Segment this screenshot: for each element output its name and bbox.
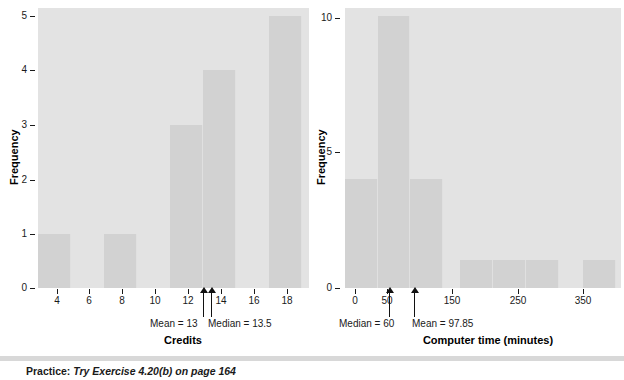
bar-left-5 — [170, 125, 203, 288]
right-yaxis-title: Frequency — [315, 129, 327, 185]
right-xtick-150: 150 — [442, 295, 462, 306]
page-footer: Practice: Try Exercise 4.20(b) on page 1… — [0, 356, 624, 380]
left-ytick-4-label: 4 — [21, 64, 27, 75]
left-xaxis-title: Credits — [143, 334, 223, 346]
left-xtick-18: 18 — [277, 295, 297, 306]
left-xtick-4-label: 4 — [54, 295, 60, 306]
left-ytick-2-label: 2 — [21, 174, 27, 185]
bar-right-9 — [583, 260, 616, 288]
practice-note: Practice: Try Exercise 4.20(b) on page 1… — [26, 365, 236, 377]
right-ytick-0: 0 — [312, 282, 340, 293]
left-median-arrow — [211, 292, 212, 317]
left-xtick-14-label: 14 — [215, 295, 226, 306]
right-median-annotation: Median = 60 — [339, 318, 394, 329]
right-xtick-350: 350 — [573, 295, 593, 306]
left-xtick-6-label: 6 — [86, 295, 92, 306]
bar-left-1 — [38, 234, 71, 288]
left-ytick-5: 5 — [10, 10, 35, 21]
right-xtick-250: 250 — [508, 295, 528, 306]
left-ytick-0-label: 0 — [21, 282, 27, 293]
bar-right-2 — [378, 16, 410, 288]
bar-right-6 — [493, 260, 526, 288]
left-ytick-0: 0 — [10, 282, 35, 293]
left-yaxis-title: Frequency — [8, 129, 20, 185]
right-mean-arrow — [414, 292, 415, 317]
bar-right-7 — [526, 260, 559, 288]
left-xtick-6: 6 — [79, 295, 99, 306]
left-xtick-12: 12 — [178, 295, 198, 306]
left-mean-arrow — [203, 292, 204, 317]
bar-right-3 — [410, 179, 443, 288]
right-xtick-350-label: 350 — [575, 295, 592, 306]
bar-left-8 — [269, 16, 302, 288]
left-ytick-5-label: 5 — [21, 10, 27, 21]
left-xtick-16-label: 16 — [248, 295, 259, 306]
right-xaxis-title: Computer time (minutes) — [408, 334, 568, 346]
left-ytick-1-label: 1 — [21, 228, 27, 239]
right-ytick-0-label: 0 — [326, 282, 332, 293]
left-ytick-1: 1 — [10, 228, 35, 239]
left-xtick-12-label: 12 — [182, 295, 193, 306]
right-ytick-10: 10 — [312, 12, 340, 23]
practice-exercise-text: Try Exercise 4.20(b) on page 164 — [70, 365, 236, 377]
histogram-figure: 5 4 3 2 1 0 Frequency 4 6 8 10 — [0, 0, 624, 356]
left-xtick-14: 14 — [211, 295, 231, 306]
right-xtick-150-label: 150 — [444, 295, 461, 306]
left-median-annotation: Median = 13.5 — [208, 318, 272, 329]
right-median-arrow — [389, 292, 390, 317]
bar-right-1 — [345, 179, 378, 288]
right-xtick-50-label: 50 — [381, 295, 392, 306]
practice-label: Practice: — [26, 365, 70, 377]
right-xtick-0: 0 — [345, 295, 365, 306]
left-chart-panel: 5 4 3 2 1 0 Frequency 4 6 8 10 — [0, 0, 312, 356]
bar-left-6 — [203, 70, 236, 288]
left-xtick-16: 16 — [244, 295, 264, 306]
right-xtick-50: 50 — [377, 295, 397, 306]
right-xtick-250-label: 250 — [510, 295, 527, 306]
right-ytick-10-label: 10 — [321, 12, 332, 23]
left-ytick-3-label: 3 — [21, 119, 27, 130]
left-xtick-8: 8 — [112, 295, 132, 306]
right-xtick-0-label: 0 — [352, 295, 358, 306]
left-xtick-4: 4 — [47, 295, 67, 306]
left-xtick-10: 10 — [145, 295, 165, 306]
footer-divider — [0, 356, 624, 361]
right-mean-annotation: Mean = 97.85 — [412, 318, 473, 329]
bar-left-3 — [104, 234, 137, 288]
right-chart-panel: 10 5 0 Frequency 0 50 150 250 350 Median… — [312, 0, 624, 356]
bar-right-5 — [460, 260, 493, 288]
left-xtick-18-label: 18 — [281, 295, 292, 306]
left-mean-annotation: Mean = 13 — [150, 318, 198, 329]
left-xtick-8-label: 8 — [119, 295, 125, 306]
left-ytick-4: 4 — [10, 64, 35, 75]
left-xtick-10-label: 10 — [149, 295, 160, 306]
right-ytick-5-label: 5 — [326, 146, 332, 157]
